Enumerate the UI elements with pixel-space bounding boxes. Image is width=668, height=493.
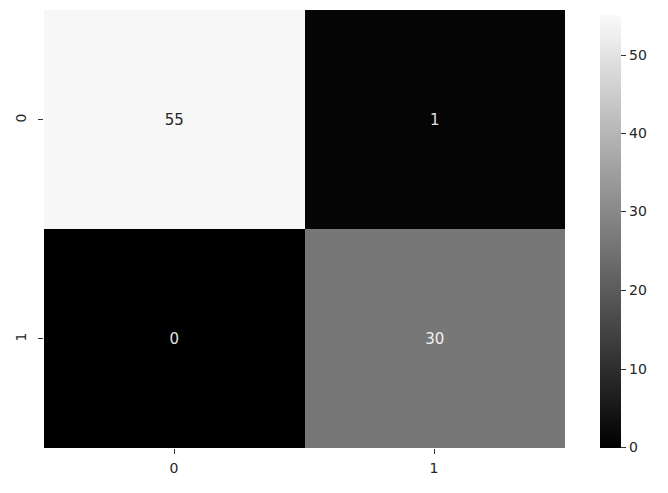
colorbar-tick-0 — [621, 447, 626, 448]
x-tick-mark-1 — [434, 449, 435, 454]
confusion-matrix-heatmap: 55 1 0 30 — [44, 10, 565, 448]
cell-annotation: 1 — [430, 111, 440, 129]
x-tick-mark-0 — [174, 449, 175, 454]
colorbar-label-10: 10 — [629, 362, 647, 376]
y-tick-label-1: 1 — [13, 330, 29, 344]
colorbar-tick-40 — [621, 133, 626, 134]
colorbar — [600, 15, 621, 448]
colorbar-label-40: 40 — [629, 126, 647, 140]
heatmap-cell-0-1: 1 — [305, 10, 566, 229]
colorbar-label-30: 30 — [629, 204, 647, 218]
colorbar-label-0: 0 — [629, 440, 638, 454]
heatmap-cell-1-0: 0 — [44, 229, 305, 448]
y-tick-mark-1 — [38, 338, 43, 339]
cell-annotation: 0 — [169, 330, 179, 348]
cell-annotation: 30 — [425, 330, 444, 348]
y-tick-mark-0 — [38, 119, 43, 120]
heatmap-cell-0-0: 55 — [44, 10, 305, 229]
y-tick-label-0: 0 — [13, 111, 29, 125]
colorbar-tick-30 — [621, 211, 626, 212]
colorbar-label-50: 50 — [629, 48, 647, 62]
colorbar-label-20: 20 — [629, 283, 647, 297]
heatmap-cell-1-1: 30 — [305, 229, 566, 448]
colorbar-tick-20 — [621, 290, 626, 291]
cell-annotation: 55 — [165, 111, 184, 129]
x-tick-label-0: 0 — [164, 460, 184, 476]
colorbar-tick-10 — [621, 369, 626, 370]
x-tick-label-1: 1 — [424, 460, 444, 476]
colorbar-tick-50 — [621, 55, 626, 56]
